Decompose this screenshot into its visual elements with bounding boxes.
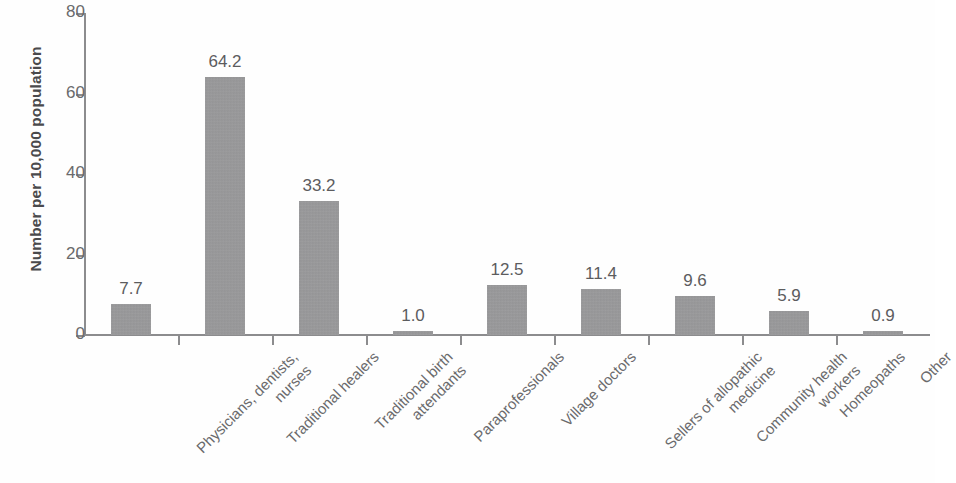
bar-value-label: 5.9	[749, 286, 829, 306]
x-axis-category-label: Village doctors	[558, 348, 641, 431]
bar	[393, 331, 433, 335]
bar-value-label: 12.5	[467, 260, 547, 280]
bar-value-label: 1.0	[373, 306, 453, 326]
x-axis-tick-mark	[742, 336, 744, 345]
bar-value-label: 0.9	[843, 306, 923, 326]
x-axis-category-label-line: Other	[916, 348, 956, 388]
x-axis-tick-mark	[272, 336, 274, 345]
x-axis-category-label: Traditional birthattendants	[371, 348, 470, 447]
y-axis-tick-label: 20	[19, 244, 85, 264]
bar	[675, 296, 715, 335]
x-axis-tick-mark	[836, 336, 838, 345]
x-axis-category-label: Paraprofessionals	[470, 348, 568, 446]
bar-value-label: 11.4	[561, 264, 641, 284]
x-axis-category-label: Sellers of allopathicmedicine	[661, 348, 779, 466]
y-axis-tick-label: 60	[19, 83, 85, 103]
bar-value-label: 9.6	[655, 271, 735, 291]
bar	[863, 331, 903, 335]
bar-value-label: 7.7	[91, 279, 171, 299]
bar-value-label: 33.2	[279, 176, 359, 196]
x-axis-category-label-line: Village doctors	[558, 348, 641, 431]
x-axis-category-label: Physicians, dentists,nurses	[193, 348, 316, 471]
x-axis-category-label: Other	[916, 348, 956, 388]
x-axis-tick-mark	[648, 336, 650, 345]
bar	[487, 285, 527, 335]
bar	[769, 311, 809, 335]
bar	[205, 77, 245, 335]
bar	[581, 289, 621, 335]
x-axis-tick-mark	[366, 336, 368, 345]
y-axis-tick-label: 80	[19, 2, 85, 22]
x-axis-tick-mark	[554, 336, 556, 345]
y-axis-tick-label: 0	[19, 324, 85, 344]
x-axis-tick-mark	[178, 336, 180, 345]
y-axis-tick-label: 40	[19, 163, 85, 183]
y-axis-title: Number per 10,000 population	[27, 9, 45, 309]
bar	[111, 304, 151, 335]
bar-value-label: 64.2	[185, 52, 265, 72]
bar	[299, 201, 339, 335]
x-axis-category-label-line: Paraprofessionals	[470, 348, 568, 446]
x-axis-tick-mark	[460, 336, 462, 345]
